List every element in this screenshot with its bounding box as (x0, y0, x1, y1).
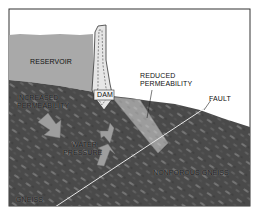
label-nonporous-gneiss: NONPOROUS GNEISS (153, 169, 229, 177)
label-gneiss: GNEISS (16, 196, 43, 204)
label-water-pressure-2: PRESSURE (63, 149, 102, 157)
label-increased-permeability-1: INCREASED (17, 94, 59, 102)
label-dam: DAM (97, 91, 113, 99)
label-reservoir: RESERVOIR (30, 58, 72, 66)
label-fault: FAULT (209, 95, 231, 103)
label-increased-permeability-2: PERMEABILITY (17, 102, 69, 110)
label-reduced-permeability-1: REDUCED (140, 72, 175, 80)
label-water-pressure-1: WATER (72, 141, 97, 149)
label-reduced-permeability-2: PERMEABILITY (140, 80, 192, 88)
